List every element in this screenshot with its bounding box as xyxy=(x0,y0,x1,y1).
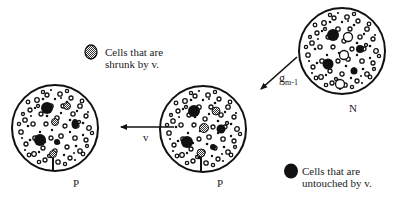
hatched-cell-icon xyxy=(85,45,97,59)
node-N xyxy=(299,8,385,94)
node-label-N: N xyxy=(349,102,357,114)
legend-shrunk-line2: shrunk by v. xyxy=(105,58,163,70)
legend-shrunk: Cells that are shrunk by v. xyxy=(105,46,163,70)
legend-shrunk-line1: Cells that are xyxy=(105,46,163,58)
legend-untouched-line2: untouched by v. xyxy=(302,177,372,189)
solid-cell-icon xyxy=(284,164,298,179)
node-left-P xyxy=(12,85,98,171)
legend-untouched-line1: Cells that are xyxy=(302,165,372,177)
node-middle-P xyxy=(160,86,246,172)
edge-label-g-sub: m-1 xyxy=(285,78,298,87)
edge-label-g: gm-1 xyxy=(279,72,298,89)
node-label-left-P: P xyxy=(73,177,79,189)
node-label-middle-P: P xyxy=(217,177,223,189)
edge-label-v: v xyxy=(143,131,149,143)
legend-untouched: Cells that are untouched by v. xyxy=(302,165,372,189)
